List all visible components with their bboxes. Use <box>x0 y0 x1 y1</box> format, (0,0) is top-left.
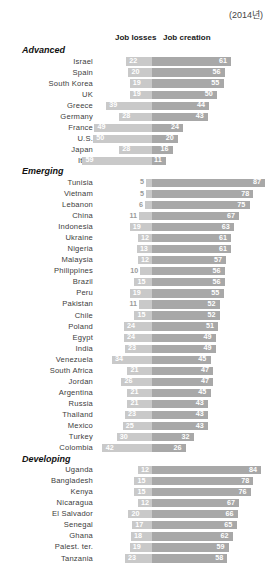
row-plot: 587 <box>97 177 269 188</box>
row-label: Spain <box>0 68 93 77</box>
chart-row: Colombia4226 <box>0 443 269 454</box>
row-plot: 1284 <box>97 465 269 476</box>
row-label: China <box>0 211 93 220</box>
bar-value-job-creation: 67 <box>227 499 235 508</box>
row-plot: 1765 <box>97 520 269 531</box>
chart-row: Senegal1765 <box>0 520 269 531</box>
bar-value-job-creation: 49 <box>204 344 212 353</box>
bar-value-job-losses: 15 <box>138 311 146 320</box>
group-header-emerging: Emerging <box>0 166 269 177</box>
bar-value-job-creation: 63 <box>222 223 230 232</box>
row-plot: 2816 <box>97 144 269 155</box>
bar-value-job-creation: 44 <box>197 101 205 110</box>
bar-job-creation <box>152 466 261 474</box>
bar-value-job-creation: 26 <box>174 444 182 453</box>
row-label: U.S. <box>0 134 93 143</box>
row-plot: 1955 <box>97 288 269 299</box>
bar-value-job-creation: 67 <box>227 212 235 221</box>
row-label: Ukraine <box>0 233 93 242</box>
chart-row: Palest. ter.1959 <box>0 542 269 553</box>
bar-job-losses <box>139 212 152 220</box>
group-label: Emerging <box>22 166 64 176</box>
bar-value-job-losses: 23 <box>128 410 136 419</box>
bar-value-job-creation: 24 <box>171 123 179 132</box>
chart-rows: AdvancedIsrael2261Spain2056South Korea19… <box>0 45 269 564</box>
bar-job-creation <box>152 179 265 187</box>
bar-value-job-losses: 24 <box>127 333 135 342</box>
bar-value-job-creation: 49 <box>204 333 212 342</box>
row-plot: 1267 <box>97 498 269 509</box>
row-plot: 578 <box>97 189 269 200</box>
group-header-advanced: Advanced <box>0 45 269 56</box>
row-plot: 1552 <box>97 310 269 321</box>
row-label: Colombia <box>0 443 93 452</box>
chart-row: Thailand2343 <box>0 409 269 420</box>
row-label: Nicaragua <box>0 498 93 507</box>
row-plot: 2451 <box>97 321 269 332</box>
bar-value-job-losses: 23 <box>128 344 136 353</box>
row-label: Mexico <box>0 421 93 430</box>
row-plot: 1950 <box>97 89 269 100</box>
row-plot: 1361 <box>97 244 269 255</box>
row-plot: 3944 <box>97 100 269 111</box>
bar-value-job-losses: 59 <box>86 156 94 165</box>
bar-value-job-losses: 42 <box>106 444 114 453</box>
bar-value-job-losses: 21 <box>130 366 138 375</box>
row-plot: 2647 <box>97 376 269 387</box>
year-annotation: (2014년) <box>229 8 263 21</box>
bar-value-job-losses: 49 <box>97 123 105 132</box>
bar-value-job-creation: 56 <box>213 267 221 276</box>
bar-value-job-creation: 43 <box>196 112 204 121</box>
row-plot: 4924 <box>97 122 269 133</box>
row-plot: 2349 <box>97 343 269 354</box>
bar-job-creation <box>152 477 253 485</box>
bar-value-job-losses: 28 <box>122 145 130 154</box>
row-label: Jordan <box>0 377 93 386</box>
row-label: Tanzania <box>0 554 93 563</box>
bar-value-job-losses: 19 <box>133 90 141 99</box>
bar-value-job-creation: 75 <box>237 201 245 210</box>
bar-value-job-creation: 47 <box>201 377 209 386</box>
bar-value-job-creation: 45 <box>198 355 206 364</box>
row-plot: 2343 <box>97 409 269 420</box>
row-label: Kenya <box>0 487 93 496</box>
row-plot: 2147 <box>97 365 269 376</box>
group-label: Advanced <box>22 45 65 55</box>
chart-row: Lebanon675 <box>0 200 269 211</box>
row-plot: 2358 <box>97 553 269 564</box>
row-label: South Korea <box>0 79 93 88</box>
bar-value-job-losses: 26 <box>125 377 133 386</box>
row-label: Malaysia <box>0 255 93 264</box>
chart-row: Malaysia1257 <box>0 255 269 266</box>
chart-row: Peru1955 <box>0 288 269 299</box>
row-plot: 1963 <box>97 222 269 233</box>
bar-value-job-losses: 17 <box>135 521 143 530</box>
row-label: Thailand <box>0 410 93 419</box>
bar-value-job-creation: 43 <box>196 399 204 408</box>
bar-value-job-losses: 6 <box>139 201 143 210</box>
bar-value-job-creation: 57 <box>214 256 222 265</box>
row-plot: 1959 <box>97 542 269 553</box>
bar-value-job-creation: 76 <box>239 488 247 497</box>
bar-value-job-losses: 11 <box>129 212 137 221</box>
row-plot: 2066 <box>97 509 269 520</box>
bar-value-job-creation: 61 <box>219 245 227 254</box>
row-plot: 3032 <box>97 432 269 443</box>
row-plot: 1257 <box>97 255 269 266</box>
bar-value-job-losses: 24 <box>127 322 135 331</box>
row-plot: 2543 <box>97 421 269 432</box>
chart-row: Israel2261 <box>0 56 269 67</box>
chart-row: Philippines1056 <box>0 266 269 277</box>
chart-row: India2349 <box>0 343 269 354</box>
bar-job-losses <box>140 267 152 275</box>
row-label: Poland <box>0 322 93 331</box>
bar-value-job-creation: 50 <box>205 90 213 99</box>
bar-value-job-losses: 22 <box>129 57 137 66</box>
row-label: Russia <box>0 399 93 408</box>
row-label: Egypt <box>0 333 93 342</box>
chart-row: Bangladesh1578 <box>0 476 269 487</box>
bar-value-job-losses: 5 <box>140 190 144 199</box>
chart-row: Tanzania2358 <box>0 553 269 564</box>
row-plot: 1261 <box>97 233 269 244</box>
